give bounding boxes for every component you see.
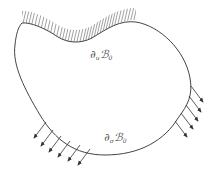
fixed-boundary-hatching xyxy=(18,2,138,50)
displacement-boundary-label: ∂uℬ0 xyxy=(90,48,113,61)
traction-arrows-left xyxy=(34,122,90,165)
traction-boundary-label: ∂σℬ0 xyxy=(104,131,127,144)
body-outline xyxy=(15,22,191,155)
traction-arrows-right xyxy=(175,86,203,137)
body-diagram: ∂uℬ0 ∂σℬ0 xyxy=(0,0,215,172)
